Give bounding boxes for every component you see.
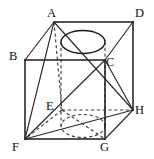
vertex-label-G: G <box>100 141 109 154</box>
cylinder-visible <box>61 31 105 54</box>
geometry-figure: A B C D E F G H <box>0 0 154 159</box>
diagonal-C-F <box>25 60 105 139</box>
vertex-label-A: A <box>47 7 56 20</box>
vertex-label-F: F <box>12 141 19 154</box>
vertex-label-B: B <box>9 50 17 63</box>
vertex-label-D: D <box>135 7 144 20</box>
vertex-label-E: E <box>46 100 54 113</box>
diagonal-A-F <box>25 22 54 139</box>
cylinder-top-ellipse <box>61 31 105 54</box>
vertex-label-H: H <box>135 104 144 117</box>
vertex-label-C: C <box>106 56 114 69</box>
figure-canvas <box>0 0 154 159</box>
